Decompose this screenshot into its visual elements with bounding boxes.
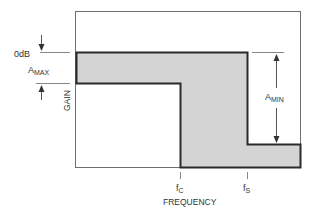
fs-label: fS <box>243 183 251 194</box>
amax-label: AMAX <box>28 65 50 76</box>
y-axis-label: GAIN <box>62 90 72 111</box>
zero-db-label: 0dB <box>14 49 30 59</box>
forbidden-region <box>77 53 301 168</box>
x-axis-label: FREQUENCY <box>163 197 217 207</box>
amin-label: AMIN <box>265 92 284 103</box>
amax-arrow-top-icon <box>39 35 45 51</box>
fc-label: fC <box>176 183 184 194</box>
amax-arrow-bottom-icon <box>39 85 45 100</box>
filter-diagram: 0dB AMAX AMIN GAIN fC fS FREQUENCY <box>0 0 313 214</box>
